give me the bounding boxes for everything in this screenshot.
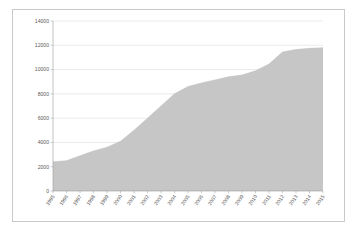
y-axis-label: 4000 [38, 139, 49, 145]
x-axis-label: 1997 [71, 194, 83, 207]
y-axis-label: 12000 [35, 42, 49, 48]
x-axis-label: 2006 [193, 194, 205, 207]
x-axis-label: 1998 [85, 194, 97, 207]
y-axis-label: 8000 [38, 91, 49, 97]
x-axis-label: 1995 [44, 194, 56, 207]
x-axis-label: 2003 [152, 194, 164, 207]
x-axis-label: 2013 [287, 194, 299, 207]
x-axis-label: 2010 [247, 194, 259, 207]
x-axis-label: 1999 [98, 194, 110, 207]
x-axis-label: 2012 [274, 194, 286, 207]
area-series [53, 48, 323, 191]
y-axis-label: 6000 [38, 115, 49, 121]
y-axis-label: 14000 [35, 18, 49, 24]
x-axis-label: 2000 [112, 194, 124, 207]
x-axis-label: 2011 [261, 193, 272, 206]
x-axis-label: 2008 [220, 194, 232, 207]
x-axis-label: 1996 [58, 194, 70, 207]
x-axis-label: 2014 [301, 194, 313, 207]
y-axis-label: 0 [46, 188, 49, 194]
x-axis-label: 2009 [233, 194, 245, 207]
x-axis-label: 2002 [139, 194, 151, 207]
x-axis-label: 2015 [314, 194, 326, 207]
y-axis-label: 2000 [38, 164, 49, 170]
x-axis-label: 2004 [166, 194, 178, 207]
x-axis-label: 2007 [206, 194, 218, 207]
x-axis-label: 2001 [125, 194, 137, 207]
y-axis-label: 10000 [35, 66, 49, 72]
chart-plot-area: 0200040006000800010000120001400019951996… [13, 10, 344, 221]
area-chart-svg: 0200040006000800010000120001400019951996… [13, 10, 344, 221]
chart-frame: 0200040006000800010000120001400019951996… [12, 9, 345, 222]
x-axis-label: 2005 [179, 194, 191, 207]
